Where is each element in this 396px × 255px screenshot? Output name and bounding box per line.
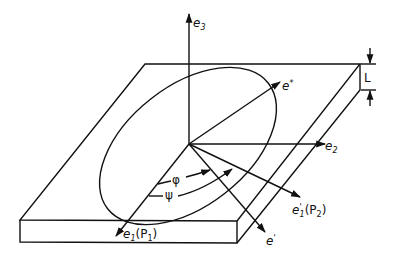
e1-arrow-icon (116, 144, 189, 236)
e-star-label: e* (282, 79, 293, 93)
thickness-label: L (364, 71, 371, 85)
e3-label: e3 (193, 16, 205, 32)
e-star-arrow-icon (189, 82, 280, 144)
e2-label: e2 (325, 139, 337, 155)
vector-labels: e3 e2 e* e1(P1) e'1(P2) e' (123, 16, 337, 248)
phi-label: φ (172, 173, 180, 187)
psi-arc-arrow-icon (178, 169, 232, 196)
phi-arc-arrow-icon (186, 170, 210, 177)
e1-p1-label: e1(P1) (123, 227, 157, 243)
e1-prime-arrow-icon (189, 144, 300, 197)
e-prime-label: e' (266, 234, 276, 248)
psi-label: ψ (165, 188, 173, 202)
plate-diagram: L φ ψ e3 e2 e* e1(P1) e'1(P2) e' (0, 0, 396, 255)
thickness-dimension: L (361, 48, 376, 106)
e1-prime-p2-label: e'1(P2) (292, 203, 326, 219)
